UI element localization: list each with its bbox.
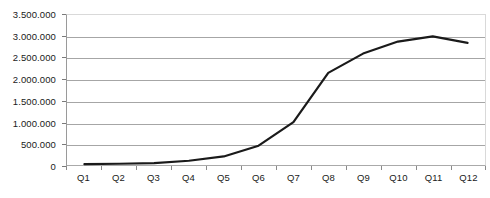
- x-tick-label: Q7: [287, 172, 300, 183]
- x-tick-label: Q4: [182, 172, 195, 183]
- x-tick-mark: [346, 166, 347, 170]
- x-tick-mark: [311, 166, 312, 170]
- plot-area: [66, 14, 486, 166]
- x-tick-label: Q11: [425, 172, 443, 183]
- x-tick-mark: [451, 166, 452, 170]
- y-axis: 0500.0001.000.0001.500.0002.000.0002.500…: [0, 0, 62, 198]
- y-tick-label: 2.000.000: [13, 74, 56, 85]
- x-tick-mark: [171, 166, 172, 170]
- y-tick-label: 3.000.000: [13, 30, 56, 41]
- x-tick-label: Q2: [112, 172, 125, 183]
- series-line-group: [67, 15, 485, 165]
- x-tick-mark: [485, 166, 486, 170]
- x-tick-label: Q3: [147, 172, 160, 183]
- x-tick-mark: [101, 166, 102, 170]
- x-tick-label: Q10: [389, 172, 407, 183]
- y-tick-label: 500.000: [21, 139, 56, 150]
- x-tick-label: Q9: [357, 172, 370, 183]
- x-tick-label: Q6: [252, 172, 265, 183]
- y-tick-label: 1.500.000: [13, 95, 56, 106]
- y-tick-label: 1.000.000: [13, 117, 56, 128]
- line-chart: 0500.0001.000.0001.500.0002.000.0002.500…: [0, 0, 490, 198]
- x-tick-mark: [381, 166, 382, 170]
- x-tick-label: Q8: [322, 172, 335, 183]
- x-axis: Q1Q2Q3Q4Q5Q6Q7Q8Q9Q10Q11Q12: [66, 172, 486, 194]
- y-tick-label: 0: [51, 161, 56, 172]
- x-tick-label: Q5: [217, 172, 230, 183]
- series-line-quarterly: [84, 36, 467, 164]
- x-tick-mark: [66, 166, 67, 170]
- x-tick-mark: [416, 166, 417, 170]
- y-tick-label: 3.500.000: [13, 9, 56, 20]
- x-tick-mark: [136, 166, 137, 170]
- x-tick-mark: [206, 166, 207, 170]
- x-tick-mark: [241, 166, 242, 170]
- y-tick-label: 2.500.000: [13, 52, 56, 63]
- x-tick-mark: [276, 166, 277, 170]
- x-tick-label: Q1: [77, 172, 90, 183]
- x-tick-label: Q12: [459, 172, 477, 183]
- x-axis-tick-marks: [66, 166, 486, 171]
